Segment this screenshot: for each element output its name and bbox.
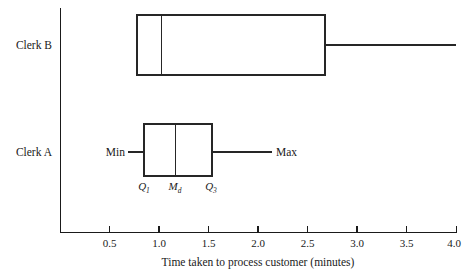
annotation-median: Md xyxy=(168,180,182,195)
annotation-q1-subscript: 1 xyxy=(146,186,150,195)
tick-label-1-0: 1.0 xyxy=(152,237,166,249)
boxplot-svg: 0.5 1.0 1.5 2.0 2.5 3.0 3.5 4.0 Time tak… xyxy=(0,0,476,280)
clerk-a-box xyxy=(144,124,212,176)
tick-label-3-0: 3.0 xyxy=(350,237,364,249)
tick-label-1-5: 1.5 xyxy=(202,237,216,249)
tick-label-4-0: 4.0 xyxy=(447,237,461,249)
svg-text:Md: Md xyxy=(168,180,182,195)
tick-label-3-5: 3.5 xyxy=(400,237,414,249)
category-label-group: Clerk B Clerk A xyxy=(16,39,53,158)
annotation-median-subscript: d xyxy=(178,186,182,195)
tick-label-2-5: 2.5 xyxy=(301,237,315,249)
annotation-q3-subscript: 3 xyxy=(212,186,217,195)
boxplot-clerk-b xyxy=(137,15,456,75)
svg-text:Q3: Q3 xyxy=(205,180,217,195)
x-axis-title: Time taken to process customer (minutes) xyxy=(162,256,355,269)
annotation-max: Max xyxy=(276,146,297,158)
clerk-b-box xyxy=(137,15,325,75)
annotation-q1: Q1 xyxy=(138,180,150,195)
tick-label-0-5: 0.5 xyxy=(103,237,117,249)
axis-lines xyxy=(61,8,457,233)
annotation-min: Min xyxy=(106,146,125,158)
annotation-q3: Q3 xyxy=(205,180,217,195)
axis-group: 0.5 1.0 1.5 2.0 2.5 3.0 3.5 4.0 Time tak… xyxy=(61,8,462,269)
category-label-clerk-a: Clerk A xyxy=(16,146,53,158)
boxplot-figure: 0.5 1.0 1.5 2.0 2.5 3.0 3.5 4.0 Time tak… xyxy=(0,0,476,280)
boxplot-clerk-a: Min Max Q1 Md Q3 xyxy=(106,124,298,195)
category-label-clerk-b: Clerk B xyxy=(16,39,52,51)
annotation-q3-base: Q xyxy=(205,180,213,192)
annotation-q1-base: Q xyxy=(138,180,146,192)
svg-text:Q1: Q1 xyxy=(138,180,150,195)
tick-label-2-0: 2.0 xyxy=(251,237,265,249)
